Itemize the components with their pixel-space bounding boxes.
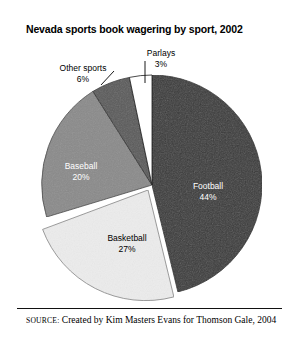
pie-label-football-value: 44% — [175, 192, 241, 203]
figure-frame: Nevada sports book wagering by sport, 20… — [17, 17, 282, 335]
pie-label-basketball-value: 27% — [89, 244, 165, 255]
pie-label-other-sports-value: 6% — [45, 74, 121, 85]
pie-label-baseball-value: 20% — [48, 172, 114, 183]
pie-label-basketball: Basketball 27% — [89, 233, 165, 254]
page-title: Nevada sports book wagering by sport, 20… — [26, 23, 243, 35]
pie-chart-plot-area: Football 44% Baseball 20% Basketball 27%… — [17, 43, 280, 307]
pie-label-baseball-name: Baseball — [48, 161, 114, 172]
source-label: SOURCE: — [26, 316, 59, 325]
pie-label-parlays-name: Parlays — [133, 48, 189, 59]
source-divider — [17, 308, 282, 309]
pie-label-parlays-value: 3% — [133, 59, 189, 70]
pie-label-other-sports: Other sports 6% — [45, 63, 121, 84]
pie-label-basketball-name: Basketball — [89, 233, 165, 244]
title-bar: Nevada sports book wagering by sport, 20… — [17, 17, 282, 43]
pie-label-other-sports-name: Other sports — [45, 63, 121, 74]
pie-label-football: Football 44% — [175, 181, 241, 202]
pie-label-parlays: Parlays 3% — [133, 48, 189, 69]
source-text: Created by Kim Masters Evans for Thomson… — [62, 315, 276, 325]
pie-label-football-name: Football — [175, 181, 241, 192]
source-note: SOURCE: Created by Kim Masters Evans for… — [26, 315, 276, 325]
pie-label-baseball: Baseball 20% — [48, 161, 114, 182]
